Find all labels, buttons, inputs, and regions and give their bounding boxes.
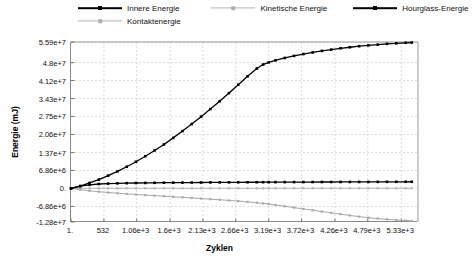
series-marker <box>267 181 270 184</box>
y-axis-tick-label: 4.12e+7 <box>39 76 66 85</box>
series-marker <box>267 61 270 64</box>
series-marker <box>200 187 202 189</box>
series-marker <box>200 197 202 199</box>
x-axis-tick-label: 2.66e+3 <box>221 226 248 235</box>
x-axis-tick-label: 3.72e+3 <box>287 226 314 235</box>
series-marker <box>367 44 370 47</box>
series-marker <box>116 170 119 173</box>
legend-label: Kontaktenergie <box>127 17 181 26</box>
series-marker <box>330 212 332 214</box>
series-marker <box>330 187 332 189</box>
series-marker <box>395 42 398 45</box>
y-axis-tick-label: 5.59e+7 <box>39 38 66 47</box>
series-marker <box>411 180 414 183</box>
legend-item-hourglass-energie[interactable]: Hourglass-Energie <box>353 3 468 13</box>
series-marker <box>339 187 341 189</box>
series-marker <box>135 193 137 195</box>
series-marker <box>107 182 110 185</box>
series-marker <box>154 187 156 189</box>
series-marker <box>125 165 128 168</box>
series-marker <box>386 43 389 46</box>
series-marker <box>237 83 240 86</box>
series-marker <box>283 57 286 60</box>
y-axis-tick-label: 1.37e+7 <box>39 148 66 157</box>
series-marker <box>274 204 276 206</box>
series-marker <box>376 43 379 46</box>
series-marker <box>153 182 156 185</box>
series-marker <box>172 181 175 184</box>
series-marker <box>339 213 341 215</box>
series-innere-energie <box>70 41 413 190</box>
series-marker <box>237 181 240 184</box>
series-marker <box>144 187 146 189</box>
series-marker <box>107 191 109 193</box>
series-marker <box>163 195 165 197</box>
series-marker <box>163 187 165 189</box>
series-marker <box>246 187 248 189</box>
series-marker <box>209 108 212 111</box>
series-marker <box>219 187 221 189</box>
series-marker <box>268 203 270 205</box>
legend-row-secondary: Kontaktenergie <box>78 16 195 26</box>
series-marker <box>321 181 324 184</box>
series-marker <box>200 115 203 118</box>
series-marker <box>411 220 413 222</box>
x-axis-tick-label: 4.26e+3 <box>320 226 347 235</box>
series-marker <box>312 187 314 189</box>
legend-item-innere-energie[interactable]: Innere Energie <box>78 3 179 13</box>
series-marker <box>98 187 100 189</box>
line-marker-icon <box>78 3 122 13</box>
series-marker <box>126 193 128 195</box>
plot-inner <box>71 42 417 221</box>
series-marker <box>377 217 379 219</box>
y-axis-tick-label: 2.75e+7 <box>39 112 66 121</box>
y-axis-tick-label: 3.43e+7 <box>39 94 66 103</box>
series-marker <box>144 182 147 185</box>
series-marker <box>302 181 305 184</box>
series-marker <box>395 219 397 221</box>
series-marker <box>386 181 389 184</box>
series-marker <box>200 181 203 184</box>
series-marker <box>339 181 342 184</box>
y-axis-tick-label: 2.06e+7 <box>39 130 66 139</box>
x-axis-tick-label: 1.06e+3 <box>122 226 149 235</box>
series-marker <box>144 155 147 158</box>
x-axis-tick-label: 2.13e+3 <box>188 226 215 235</box>
series-marker <box>293 55 296 58</box>
series-marker <box>358 187 360 189</box>
plot-canvas <box>71 42 418 222</box>
line-marker-icon <box>78 16 122 26</box>
series-marker <box>262 181 265 184</box>
series-marker <box>209 181 212 184</box>
series-marker <box>246 181 249 184</box>
series-marker <box>386 187 388 189</box>
series-marker <box>154 195 156 197</box>
legend-item-kontaktenergie[interactable]: Kontaktenergie <box>78 16 181 26</box>
series-marker <box>358 181 361 184</box>
series-marker <box>228 181 231 184</box>
series-marker <box>405 187 407 189</box>
line-marker-icon <box>211 3 255 13</box>
series-marker <box>311 51 314 54</box>
x-axis-tick-label: 532 <box>97 226 110 235</box>
series-marker <box>191 187 193 189</box>
series-marker <box>135 187 137 189</box>
series-marker <box>411 41 414 44</box>
series-line <box>71 43 412 189</box>
series-marker <box>219 199 221 201</box>
series-marker <box>126 187 128 189</box>
legend-item-kinetische-energie[interactable]: Kinetische Energie <box>211 3 327 13</box>
series-marker <box>163 143 166 146</box>
series-marker <box>88 190 90 192</box>
series-marker <box>190 181 193 184</box>
series-marker <box>172 196 174 198</box>
series-marker <box>395 187 397 189</box>
series-marker <box>262 187 264 189</box>
legend-label: Kinetische Energie <box>260 4 327 13</box>
x-axis-tick-label: 3.19e+3 <box>254 226 281 235</box>
series-marker <box>144 194 146 196</box>
series-marker <box>358 216 360 218</box>
series-marker <box>367 181 370 184</box>
series-marker <box>70 187 73 190</box>
series-marker <box>404 180 407 183</box>
